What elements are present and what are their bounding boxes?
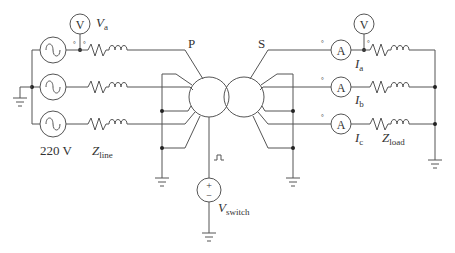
svg-text:A: A: [337, 44, 346, 58]
line-impedance-b: [66, 81, 150, 93]
va-label: Va: [96, 15, 108, 32]
ac-source-b: [40, 74, 66, 100]
svg-text:A: A: [337, 81, 346, 95]
vswitch-label: Vswitch: [218, 200, 250, 217]
voltmeter-secondary: V °: [354, 14, 374, 52]
zload-label: Zload: [382, 130, 405, 147]
ic-label: Ic: [354, 130, 363, 147]
zline-label: Zline: [92, 143, 113, 160]
svg-text:°: °: [321, 39, 324, 47]
switch-source: + −: [197, 117, 224, 241]
transformer: [189, 77, 264, 117]
line-impedance-a: [66, 44, 150, 56]
svg-text:°: °: [83, 40, 86, 48]
circuit-diagram: 220 V V ° ° Va Zline P: [0, 0, 455, 253]
load-impedance-c: [351, 118, 435, 130]
svg-text:V: V: [360, 18, 369, 32]
load-impedance-b: [351, 81, 435, 93]
primary-windings: [150, 50, 203, 186]
line-impedance-c: [66, 118, 150, 130]
svg-text:°: °: [73, 40, 76, 48]
ia-label: Ia: [354, 56, 363, 73]
svg-text:A: A: [337, 118, 346, 132]
load-neutral-bus: [428, 50, 442, 168]
secondary-label: S: [258, 36, 265, 51]
voltmeter-primary: V ° °: [70, 14, 90, 52]
svg-text:−: −: [206, 190, 212, 201]
svg-text:V: V: [76, 18, 85, 32]
svg-text:°: °: [367, 39, 370, 47]
primary-label: P: [188, 36, 195, 51]
ib-label: Ib: [354, 92, 364, 109]
source-voltage-label: 220 V: [40, 143, 73, 158]
pulse-icon: [214, 155, 224, 160]
ac-source-a: [40, 37, 66, 63]
ac-source-c: [40, 111, 66, 137]
secondary-windings: [250, 50, 331, 186]
source-bus: [13, 50, 40, 124]
svg-text:°: °: [321, 76, 324, 84]
svg-text:°: °: [321, 113, 324, 121]
